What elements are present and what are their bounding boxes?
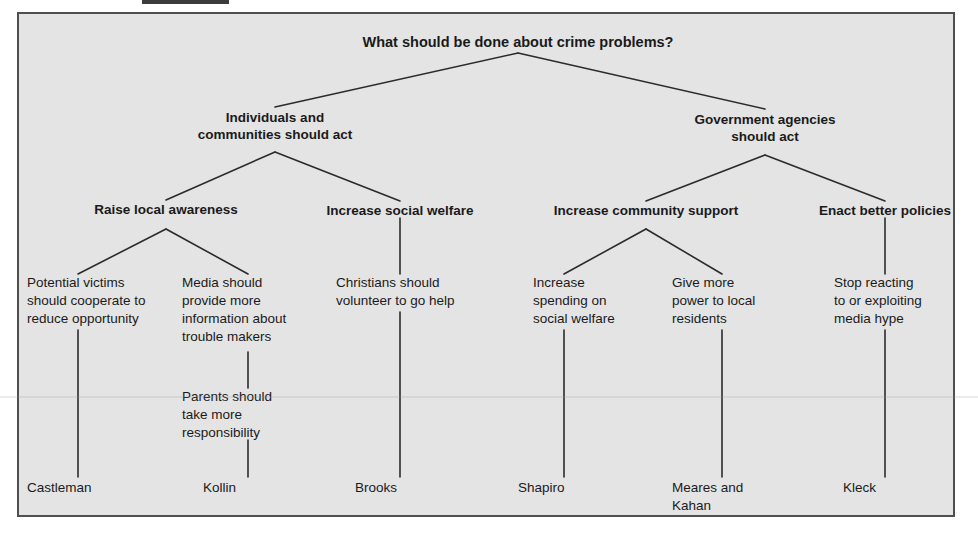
node-individuals-and-communities: Individuals and communities should act [155, 109, 395, 144]
node-source-meares-and-kahan: Meares and Kahan [672, 479, 790, 515]
node-enact-better-policies: Enact better policies [785, 202, 978, 219]
node-claim-potential-victims: Potential victims should cooperate to re… [27, 274, 162, 328]
node-source-shapiro: Shapiro [518, 479, 628, 497]
node-claim-christians-volunteer: Christians should volunteer to go help [336, 274, 481, 310]
node-claim-give-more-power: Give more power to local residents [672, 274, 790, 328]
node-source-castleman: Castleman [27, 479, 157, 497]
node-source-brooks: Brooks [355, 479, 465, 497]
scan-artifact-bar [142, 0, 229, 4]
node-claim-stop-reacting-media-hype: Stop reacting to or exploiting media hyp… [834, 274, 954, 328]
node-increase-community-support: Increase community support [526, 202, 766, 219]
node-government-agencies: Government agencies should act [645, 111, 885, 146]
node-source-kleck: Kleck [843, 479, 953, 497]
node-source-kollin: Kollin [203, 479, 313, 497]
diagram-frame [17, 12, 955, 517]
node-root-question: What should be done about crime problems… [268, 33, 768, 52]
node-increase-social-welfare: Increase social welfare [290, 202, 510, 219]
node-claim-parents-responsibility: Parents should take more responsibility [182, 388, 312, 442]
node-claim-increase-spending: Increase spending on social welfare [533, 274, 643, 328]
node-raise-local-awareness: Raise local awareness [56, 201, 276, 218]
node-claim-media-should-provide: Media should provide more information ab… [182, 274, 310, 346]
figure-stage: What should be done about crime problems… [0, 0, 978, 551]
